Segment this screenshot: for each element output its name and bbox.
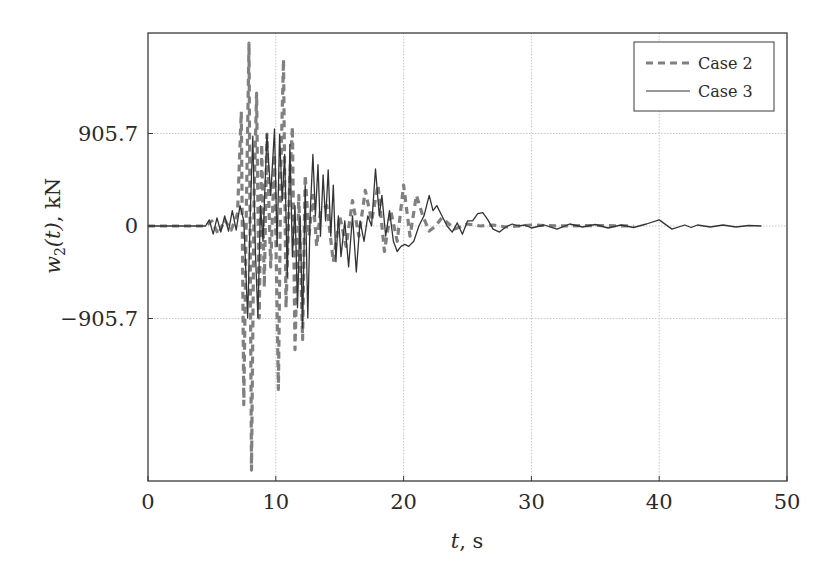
x-tick-label: 0 (141, 490, 154, 514)
chart-figure: 01020304050 −905.70905.7 t, s w2(t), kN … (0, 0, 837, 579)
x-tick-label: 50 (774, 490, 801, 514)
y-tick-label: 905.7 (78, 122, 138, 146)
y-axis-label: w2(t), kN (41, 178, 68, 274)
x-axis-ticks: 01020304050 (141, 476, 800, 514)
legend-label-case-2: Case 2 (698, 54, 753, 73)
y-tick-label: −905.7 (60, 307, 138, 331)
x-tick-label: 30 (518, 490, 545, 514)
legend: Case 2 Case 3 (634, 42, 774, 111)
y-axis-ticks: −905.70905.7 (60, 122, 153, 331)
x-tick-label: 40 (646, 490, 673, 514)
series-line-case-2 (148, 43, 634, 470)
x-axis-label: t, s (451, 529, 484, 553)
y-tick-label: 0 (125, 214, 138, 238)
x-tick-label: 10 (262, 490, 289, 514)
legend-label-case-3: Case 3 (698, 82, 753, 101)
x-tick-label: 20 (390, 490, 417, 514)
